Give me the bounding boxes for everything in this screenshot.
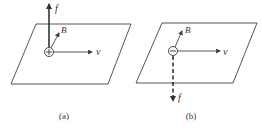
positive-charge-icon	[45, 48, 54, 57]
force-label-a: f	[55, 3, 59, 14]
velocity-label-a: v	[96, 46, 101, 57]
velocity-label-b: v	[223, 46, 228, 57]
field-label-b: B	[185, 25, 191, 35]
force-label-b: f	[178, 92, 182, 103]
caption-b: (b)	[186, 111, 197, 121]
lorentz-force-diagram: f B v (a) B v f (b)	[0, 0, 262, 130]
field-arrow-a	[51, 33, 59, 48]
plane-a	[11, 24, 131, 84]
negative-charge-icon	[169, 47, 178, 56]
panel-b: B v f (b)	[136, 23, 257, 121]
caption-a: (a)	[59, 111, 69, 121]
field-label-a: B	[61, 25, 67, 35]
panel-a: f B v (a)	[11, 3, 131, 121]
field-arrow-b	[175, 31, 182, 47]
plane-b	[136, 23, 257, 83]
